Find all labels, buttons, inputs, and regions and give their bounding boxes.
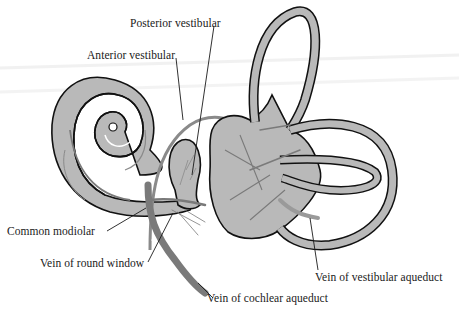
background-streaks: [0, 55, 459, 92]
label-vein-of-vestibular-aqueduct: Vein of vestibular aqueduct: [315, 272, 443, 284]
label-vein-of-cochlear-aqueduct: Vein of cochlear aqueduct: [207, 293, 328, 305]
label-vein-of-round-window: Vein of round window: [40, 258, 144, 270]
label-common-modiolar: Common modiolar: [7, 226, 95, 238]
label-posterior-vestibular: Posterior vestibular: [130, 18, 221, 30]
inner-ear-diagram: Posterior vestibular Anterior vestibular…: [0, 0, 459, 315]
label-anterior-vestibular: Anterior vestibular: [87, 50, 175, 62]
vestibule: [210, 95, 321, 239]
